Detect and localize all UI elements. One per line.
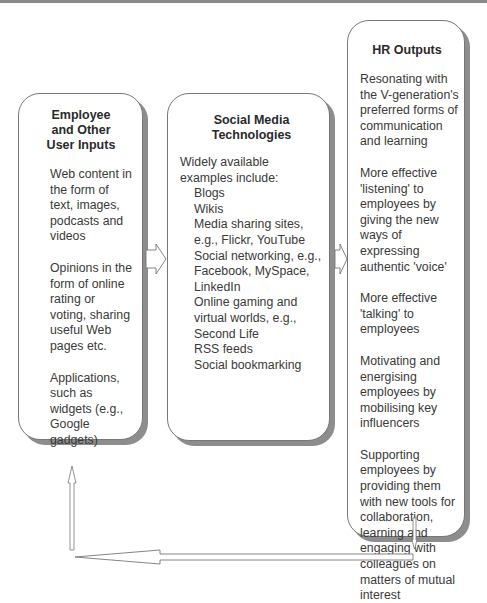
arrow-right-icon [146, 244, 166, 274]
arrow-up-icon [68, 466, 76, 550]
arrow-left-icon [75, 550, 413, 564]
arrow-down-icon [412, 518, 417, 549]
arrow-right-icon [335, 244, 347, 274]
